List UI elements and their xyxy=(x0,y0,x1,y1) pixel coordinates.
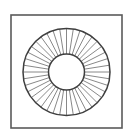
spoke-line xyxy=(84,59,108,67)
inner-circle xyxy=(49,54,85,90)
spoke-line xyxy=(84,65,109,69)
annulus-diagram xyxy=(0,0,129,135)
spoke-line xyxy=(25,59,49,67)
spoke-line xyxy=(69,29,73,54)
spoke-line xyxy=(24,75,49,79)
spoke-line xyxy=(84,75,109,79)
spoke-line xyxy=(24,65,49,69)
spoke-line xyxy=(53,31,61,55)
spoke-line xyxy=(53,89,61,113)
spoke-line xyxy=(60,90,64,115)
spoke-line xyxy=(84,78,108,86)
spoke-line xyxy=(25,78,49,86)
spoke-line xyxy=(72,31,80,55)
spoke-line xyxy=(72,89,80,113)
spoke-line xyxy=(60,29,64,54)
spoke-line xyxy=(69,90,73,115)
